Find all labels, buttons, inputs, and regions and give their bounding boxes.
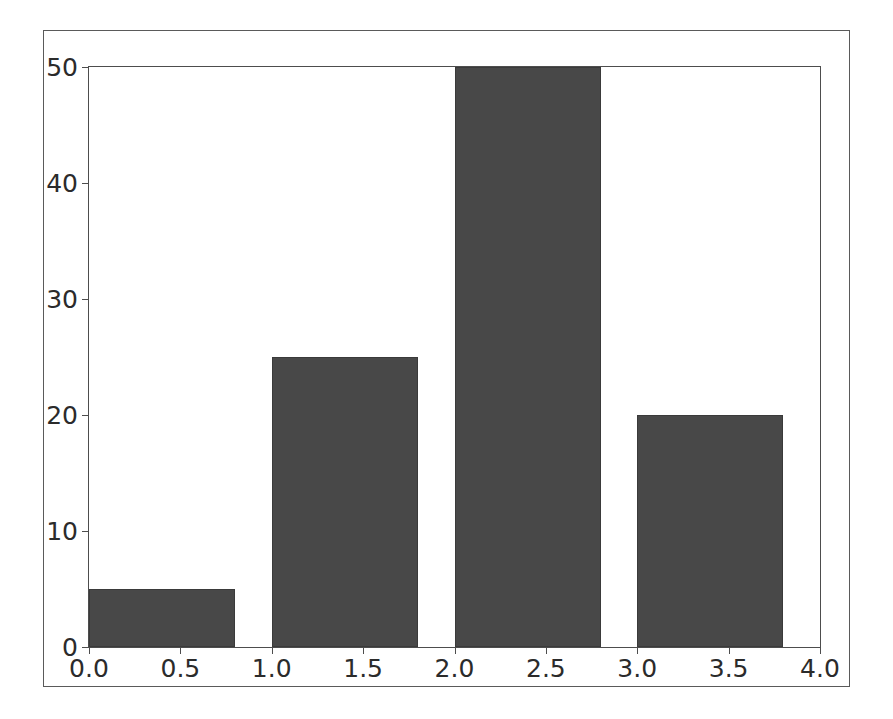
y-tick-mark [82,67,89,68]
plot-surface [89,67,820,647]
y-tick-mark [82,183,89,184]
y-tick-label: 50 [46,55,78,80]
y-tick-label: 10 [46,519,78,544]
bar [637,415,783,647]
y-tick-mark [82,415,89,416]
bar [272,357,418,647]
x-tick-mark [820,647,821,654]
bar [455,67,601,647]
x-tick-mark [729,647,730,654]
figure-canvas: 01020304050 0.00.51.01.52.02.53.03.54.0 [43,30,850,687]
x-tick-mark [180,647,181,654]
x-tick-label: 3.0 [617,656,657,681]
x-tick-mark [272,647,273,654]
y-tick-label: 30 [46,287,78,312]
x-tick-mark [363,647,364,654]
x-tick-label: 4.0 [800,656,840,681]
y-tick-mark [82,647,89,648]
x-tick-label: 2.5 [526,656,566,681]
y-tick-label: 40 [46,171,78,196]
bar [89,589,235,647]
x-tick-label: 1.0 [252,656,292,681]
x-tick-label: 1.5 [343,656,383,681]
y-tick-mark [82,531,89,532]
x-tick-label: 2.0 [435,656,475,681]
y-tick-label: 20 [46,403,78,428]
x-tick-mark [89,647,90,654]
x-tick-mark [455,647,456,654]
x-tick-label: 3.5 [709,656,749,681]
y-tick-mark [82,299,89,300]
x-tick-label: 0.0 [69,656,109,681]
x-tick-mark [546,647,547,654]
chart-axes: 01020304050 0.00.51.01.52.02.53.03.54.0 [88,66,821,648]
x-tick-mark [637,647,638,654]
x-tick-label: 0.5 [160,656,200,681]
